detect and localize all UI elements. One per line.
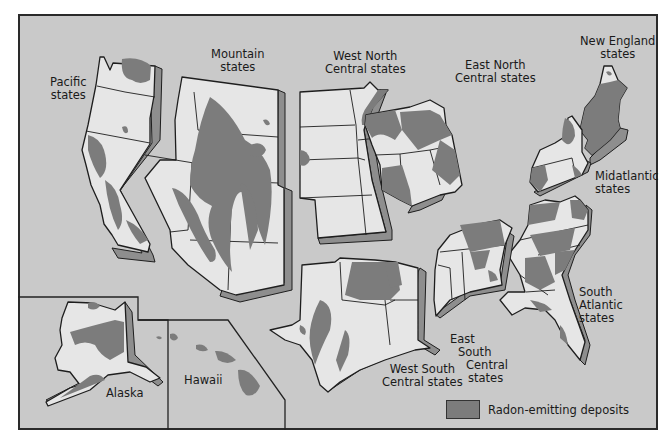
region-mountain[interactable]	[145, 77, 292, 302]
region-pacific[interactable]	[82, 57, 162, 262]
region-new-england[interactable]	[580, 66, 628, 165]
legend-label: Radon-emitting deposits	[488, 403, 629, 417]
label-west-north-central: West North Central states	[325, 50, 406, 76]
label-east-north-central: East North Central states	[455, 59, 536, 85]
region-south-atlantic[interactable]	[500, 196, 592, 365]
label-pacific: Pacific states	[50, 76, 87, 102]
label-new-england: New England states	[580, 35, 655, 61]
label-hawaii: Hawaii	[184, 374, 223, 387]
label-alaska: Alaska	[106, 387, 144, 400]
region-west-north-central[interactable]	[300, 82, 392, 244]
label-midatlantic: Midatlantic states	[595, 170, 659, 196]
label-south-atlantic: South Atlantic states	[579, 286, 623, 325]
label-mountain: Mountain states	[211, 48, 265, 74]
region-alaska[interactable]	[46, 302, 163, 406]
legend-swatch-radon-deposits	[446, 400, 480, 419]
label-west-south-central: West South Central states	[382, 363, 463, 389]
legend: Radon-emitting deposits	[446, 400, 629, 419]
